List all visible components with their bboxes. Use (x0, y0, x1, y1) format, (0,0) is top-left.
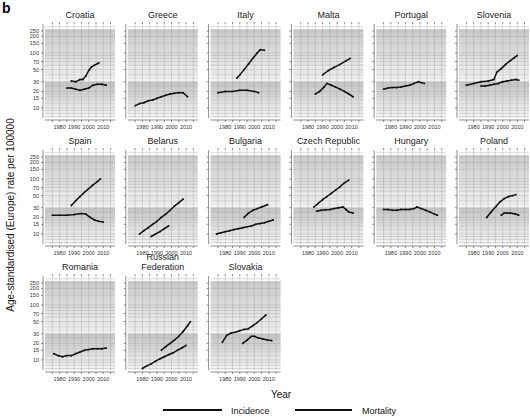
x-tick-label: 1980 (54, 124, 66, 130)
data-point (515, 194, 517, 196)
data-point (224, 91, 226, 93)
data-point (265, 314, 267, 316)
y-tick-label: 15 (33, 347, 39, 353)
data-point (348, 179, 350, 181)
data-point (413, 83, 415, 85)
x-tick-label: 2000 (414, 250, 426, 256)
panel-russian-federation: 1980199020002010RussianFederation (124, 252, 198, 382)
data-point (246, 339, 248, 341)
data-point (242, 343, 244, 345)
data-point (181, 347, 183, 349)
data-point (98, 62, 100, 64)
data-point (57, 355, 59, 357)
data-point (246, 89, 248, 91)
y-tick-label: 30 (33, 79, 39, 85)
data-point (243, 329, 245, 331)
data-point (224, 231, 226, 233)
panel-portugal: 1980199020002010Portugal (372, 10, 446, 130)
legend-item-incidence: Incidence (163, 406, 270, 416)
data-point (75, 88, 77, 90)
data-point (509, 212, 511, 214)
data-point (314, 93, 316, 95)
x-tick-label: 2010 (511, 250, 523, 256)
data-point (182, 92, 184, 94)
data-point (226, 335, 228, 337)
data-point (423, 83, 425, 85)
data-point (59, 214, 61, 216)
data-point (147, 227, 149, 229)
x-tick-label: 2000 (248, 376, 260, 382)
data-point (413, 208, 415, 210)
data-point (333, 208, 335, 210)
x-tick-label: 1980 (219, 124, 231, 130)
data-point (503, 198, 505, 200)
data-point (323, 86, 325, 88)
y-tick-label: 15 (33, 95, 39, 101)
x-tick-label: 2010 (346, 250, 358, 256)
y-tick-label: 50 (33, 67, 39, 73)
data-point (75, 353, 77, 355)
data-point (348, 93, 350, 95)
data-point (73, 214, 75, 216)
data-point (105, 84, 107, 86)
data-point (150, 363, 152, 365)
data-point (436, 214, 438, 216)
y-tick-label: 20 (33, 214, 39, 220)
data-point (313, 206, 315, 208)
x-tick-label: 1990 (482, 124, 494, 130)
x-tick-label: 1980 (468, 124, 480, 130)
x-tick-label: 2000 (248, 124, 260, 130)
data-point (174, 205, 176, 207)
x-tick-label: 2000 (331, 250, 343, 256)
x-tick-label: 2010 (511, 124, 523, 130)
x-tick-label: 2010 (97, 376, 109, 382)
data-point (143, 230, 145, 232)
data-point (88, 188, 90, 190)
data-point (500, 68, 502, 70)
data-point (168, 354, 170, 356)
data-point (217, 92, 219, 94)
panel-title: Poland (480, 136, 508, 146)
x-tick-label: 1990 (234, 250, 246, 256)
x-tick-label: 2010 (180, 376, 192, 382)
data-point (272, 219, 274, 221)
data-point (506, 212, 508, 214)
data-point (420, 82, 422, 84)
data-point (102, 221, 104, 223)
data-point (248, 328, 250, 330)
data-point (495, 206, 497, 208)
data-point (242, 227, 244, 229)
panel-spain: 1015203050701001502002501980199020002010… (30, 136, 115, 256)
data-point (160, 349, 162, 351)
data-point (97, 181, 99, 183)
x-tick-label: 2000 (83, 250, 95, 256)
x-tick-label: 2010 (428, 124, 440, 130)
data-point (480, 85, 482, 87)
data-point (101, 348, 103, 350)
x-tick-label: 1980 (302, 250, 314, 256)
panel-poland: 1980199020002010Poland (455, 136, 529, 256)
data-point (88, 87, 90, 89)
legend-label-incidence: Incidence (231, 406, 270, 416)
data-point (169, 343, 171, 345)
y-tick-label: 70 (33, 311, 39, 317)
y-axis-title: Age-standardised (Europe) rate per 10000… (5, 118, 16, 312)
data-point (251, 225, 253, 227)
data-point (152, 223, 154, 225)
data-point (508, 196, 510, 198)
x-tick-label: 2000 (331, 124, 343, 130)
data-point (252, 209, 254, 211)
data-point (239, 89, 241, 91)
data-point (185, 344, 187, 346)
y-tick-label: 150 (30, 40, 39, 46)
data-point (155, 233, 157, 235)
data-point (333, 66, 335, 68)
data-point (187, 96, 189, 98)
x-tick-label: 2010 (346, 124, 358, 130)
data-point (66, 355, 68, 357)
data-point (165, 94, 167, 96)
data-point (155, 360, 157, 362)
x-tick-label: 1980 (54, 250, 66, 256)
data-point (139, 233, 141, 235)
x-tick-label: 1990 (234, 124, 246, 130)
